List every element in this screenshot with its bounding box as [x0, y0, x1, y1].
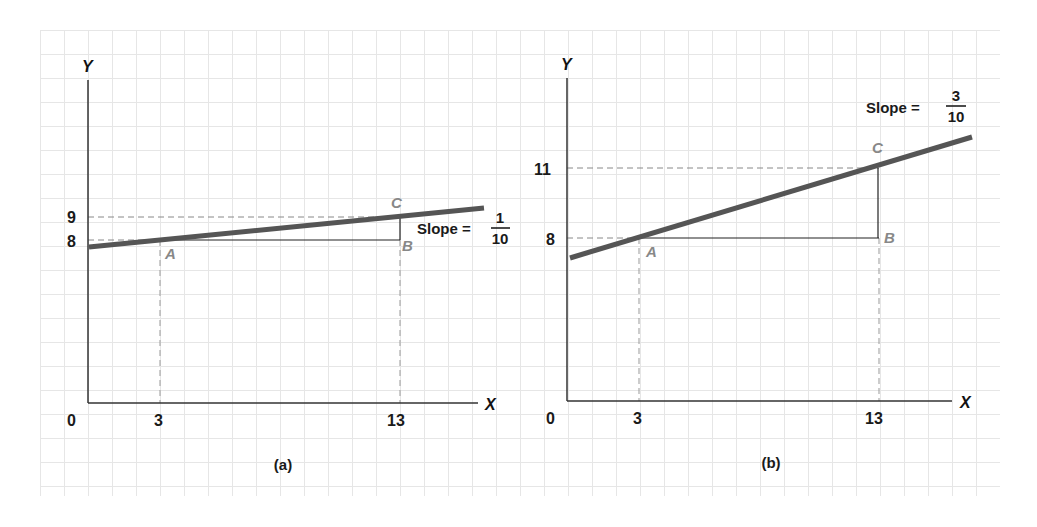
- y-tick-11: 11: [534, 161, 551, 178]
- x-axis-label: X: [484, 396, 497, 413]
- slope-text: Slope =: [417, 220, 471, 237]
- figure-canvas: Y X 0 3 13 9 8 A B C Slope = 1 10 (a) Y …: [0, 0, 1037, 527]
- origin-label: 0: [546, 410, 555, 427]
- slope-text: Slope =: [866, 99, 920, 116]
- y-tick-8: 8: [546, 231, 555, 248]
- y-tick-8: 8: [67, 233, 76, 250]
- panel-label-b: (b): [761, 454, 780, 471]
- y-axis-label: Y: [82, 58, 94, 75]
- slope-denominator: 10: [948, 108, 965, 125]
- slope-numerator: 3: [952, 87, 960, 104]
- origin-label: 0: [67, 412, 76, 429]
- panel-label-a: (a): [274, 456, 292, 473]
- x-tick-13: 13: [387, 412, 405, 429]
- panel-a: Y X 0 3 13 9 8 A B C Slope = 1 10 (a): [67, 58, 510, 473]
- slope-numerator: 1: [496, 209, 504, 226]
- x-tick-3: 3: [633, 410, 642, 427]
- panel-b: Y X 0 3 13 11 8 A B C Slope = 3 10 (b): [534, 56, 972, 471]
- point-a-label: A: [645, 243, 657, 260]
- slope-denominator: 10: [492, 230, 509, 247]
- x-tick-3: 3: [154, 412, 163, 429]
- x-tick-13: 13: [865, 410, 883, 427]
- point-b-label: B: [884, 229, 895, 246]
- y-tick-9: 9: [67, 209, 76, 226]
- point-c-label: C: [872, 139, 884, 156]
- point-c-label: C: [391, 194, 403, 211]
- data-line: [570, 137, 972, 258]
- point-b-label: B: [402, 237, 413, 254]
- y-axis-label: Y: [561, 56, 573, 73]
- point-a-label: A: [164, 245, 176, 262]
- x-axis-label: X: [959, 394, 972, 411]
